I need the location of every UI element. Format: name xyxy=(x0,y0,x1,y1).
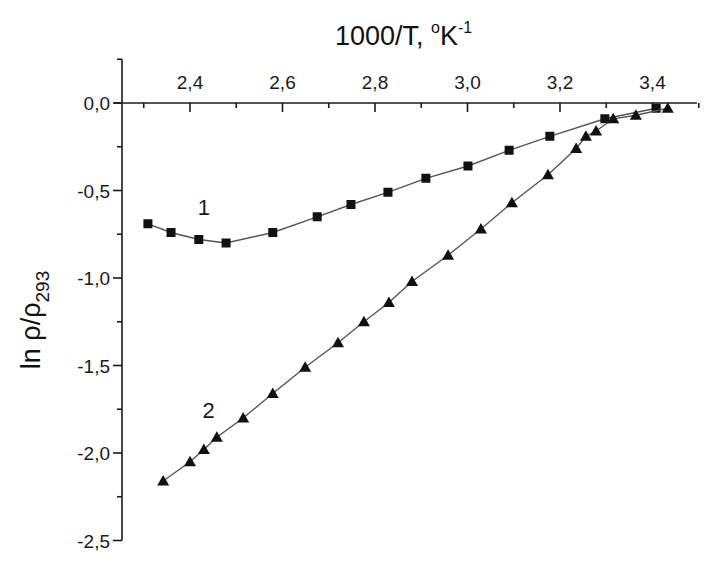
y-tick-label: 0,0 xyxy=(84,93,110,114)
degree-symbol: o xyxy=(431,19,440,36)
x-tick-labels: 2,42,62,83,03,23,4 xyxy=(177,72,666,93)
x-tick-label: 3,4 xyxy=(639,72,666,93)
triangle-marker xyxy=(237,412,249,423)
square-marker xyxy=(143,219,152,228)
triangle-marker xyxy=(662,102,674,113)
svg-text:ln ρ/ρ293: ln ρ/ρ293 xyxy=(16,271,53,369)
triangle-marker xyxy=(442,249,454,260)
x-tick-label: 2,8 xyxy=(362,72,388,93)
triangle-marker xyxy=(267,388,279,399)
triangle-marker xyxy=(157,475,169,486)
square-marker xyxy=(463,162,472,171)
y-tick-label: -1,0 xyxy=(77,268,110,289)
x-tick-label: 3,0 xyxy=(454,72,480,93)
y-tick-label: -0,5 xyxy=(77,181,110,202)
y-axis-title: ln ρ/ρ293 xyxy=(16,271,53,369)
series-line xyxy=(148,108,656,243)
x-tick-label: 2,4 xyxy=(177,72,204,93)
square-marker xyxy=(268,228,277,237)
triangle-marker xyxy=(358,316,370,327)
series-2 xyxy=(157,102,674,485)
square-marker xyxy=(194,235,203,244)
triangle-marker xyxy=(332,337,344,348)
curve-label-1: 1 xyxy=(198,195,210,220)
y-axis-title-text: ln ρ/ρ xyxy=(16,302,46,369)
y-axis-subscript: 293 xyxy=(32,271,53,303)
triangle-marker xyxy=(506,197,518,208)
axes xyxy=(113,59,699,540)
x-tick-label: 3,2 xyxy=(547,72,573,93)
series-1 xyxy=(143,104,660,248)
x-axis-exponent: -1 xyxy=(458,19,472,36)
y-tick-label: -2,0 xyxy=(77,443,110,464)
chart-canvas: 1000/T, oK-1 ln ρ/ρ293 2,42,62,83,03,23,… xyxy=(0,0,710,565)
series-line xyxy=(163,108,668,481)
square-marker xyxy=(421,174,430,183)
triangle-marker xyxy=(590,125,602,136)
square-marker xyxy=(346,200,355,209)
y-tick-labels: 0,0-0,5-1,0-1,5-2,0-2,5 xyxy=(77,93,110,552)
square-marker xyxy=(313,212,322,221)
square-marker xyxy=(505,146,514,155)
triangle-marker xyxy=(211,431,223,442)
triangle-marker xyxy=(406,276,418,287)
series-layer xyxy=(143,102,673,485)
square-marker xyxy=(545,132,554,141)
x-axis-unit: K xyxy=(440,21,458,51)
x-tick-label: 2,6 xyxy=(269,72,295,93)
square-marker xyxy=(222,239,231,248)
y-tick-label: -2,5 xyxy=(77,531,110,552)
square-marker xyxy=(383,188,392,197)
x-axis-title: 1000/T, oK-1 xyxy=(335,19,472,51)
curve-labels: 12 xyxy=(198,195,215,423)
x-axis-title-text: 1000/T, xyxy=(335,21,431,51)
curve-label-2: 2 xyxy=(202,398,214,423)
svg-text:1000/T, oK-1: 1000/T, oK-1 xyxy=(335,19,472,51)
y-tick-label: -1,5 xyxy=(77,356,110,377)
triangle-marker xyxy=(299,361,311,372)
square-marker xyxy=(167,228,176,237)
